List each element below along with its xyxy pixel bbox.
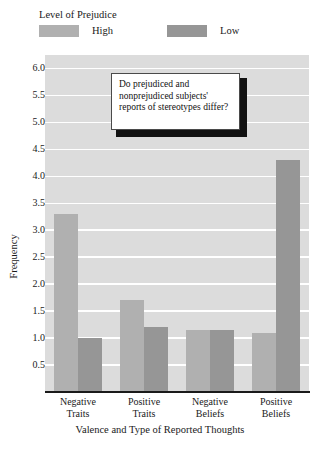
y-axis-tick-label: 6.0 bbox=[3, 63, 45, 73]
x-axis-tick-line: Traits bbox=[111, 408, 177, 420]
x-axis-tick-line: Positive bbox=[111, 396, 177, 408]
callout-box: Do prejudiced and nonprejudiced subjects… bbox=[111, 73, 240, 130]
bar-low-3 bbox=[276, 160, 300, 392]
bar-low-1 bbox=[144, 327, 168, 392]
y-axis-tick-label: 5.5 bbox=[3, 90, 45, 100]
bar-high-2 bbox=[186, 330, 210, 392]
x-axis-tick-line: Beliefs bbox=[243, 408, 309, 420]
x-axis-tick-line: Negative bbox=[45, 396, 111, 408]
y-axis-tick-label: 5.0 bbox=[3, 117, 45, 127]
y-axis-tick-label: 2.5 bbox=[3, 252, 45, 262]
y-axis: Frequency 0.51.01.52.02.53.03.54.04.55.0… bbox=[0, 55, 45, 392]
bar-chart: Frequency 0.51.01.52.02.53.03.54.04.55.0… bbox=[0, 0, 320, 466]
y-axis-tick-label: 4.0 bbox=[3, 171, 45, 181]
x-axis-tick-line: Positive bbox=[243, 396, 309, 408]
y-axis-tick-label: 1.0 bbox=[3, 333, 45, 343]
x-axis-tick-label: PositiveTraits bbox=[111, 396, 177, 420]
x-axis-tick-line: Negative bbox=[177, 396, 243, 408]
bar-high-3 bbox=[252, 333, 276, 392]
y-axis-tick-label: 0.5 bbox=[3, 360, 45, 370]
y-axis-tick-label: 4.5 bbox=[3, 144, 45, 154]
x-axis-tick-labels: NegativeTraitsPositiveTraitsNegativeBeli… bbox=[45, 396, 309, 420]
y-axis-tick-label: 3.0 bbox=[3, 225, 45, 235]
x-axis-tick-line: Traits bbox=[45, 408, 111, 420]
bar-low-2 bbox=[210, 330, 234, 392]
bar-low-0 bbox=[78, 338, 102, 392]
x-axis-line bbox=[45, 391, 310, 393]
x-axis-tick-label: NegativeTraits bbox=[45, 396, 111, 420]
bar-high-1 bbox=[120, 300, 144, 392]
x-axis-title: Valence and Type of Reported Thoughts bbox=[0, 424, 320, 435]
bar-high-0 bbox=[54, 214, 78, 392]
y-axis-tick-label: 2.0 bbox=[3, 279, 45, 289]
callout-text: Do prejudiced and nonprejudiced subjects… bbox=[119, 79, 233, 114]
y-axis-tick-label: 3.5 bbox=[3, 198, 45, 208]
x-axis-tick-line: Beliefs bbox=[177, 408, 243, 420]
x-axis-tick-label: PositiveBeliefs bbox=[243, 396, 309, 420]
x-axis-tick-label: NegativeBeliefs bbox=[177, 396, 243, 420]
y-axis-tick-label: 1.5 bbox=[3, 306, 45, 316]
